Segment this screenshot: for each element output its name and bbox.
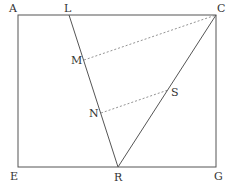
- label-E: E: [10, 170, 18, 183]
- dashed-segment-NS: [101, 90, 168, 113]
- segment-LR: [69, 15, 118, 167]
- label-L: L: [64, 2, 72, 15]
- label-A: A: [8, 2, 18, 15]
- segment-CR: [118, 15, 216, 167]
- label-G: G: [214, 170, 223, 183]
- label-R: R: [114, 171, 123, 184]
- geometry-diagram: A L C M S N E R G: [0, 0, 227, 188]
- label-M: M: [71, 54, 82, 67]
- rectangle-ACGE: [18, 15, 216, 167]
- label-S: S: [171, 86, 179, 99]
- label-N: N: [89, 107, 99, 120]
- label-C: C: [217, 2, 225, 15]
- dashed-segment-MC: [84, 15, 216, 60]
